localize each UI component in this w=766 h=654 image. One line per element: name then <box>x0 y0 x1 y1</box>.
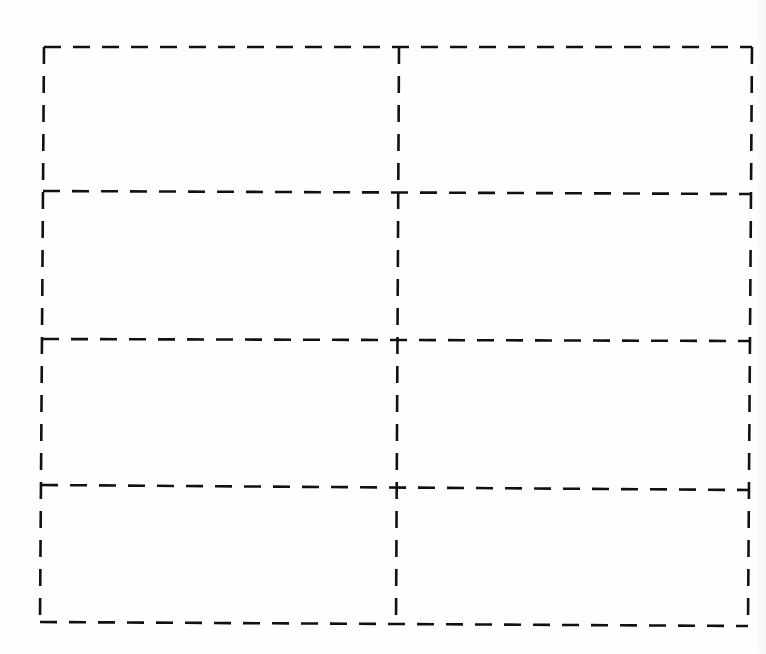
grid-row-divider-2 <box>42 339 750 341</box>
grid-bottom-edge <box>40 622 748 626</box>
grid-left-edge <box>40 47 44 622</box>
grid-right-edge <box>748 47 752 626</box>
scanned-sheet <box>0 0 766 654</box>
grid-column-divider <box>396 47 399 624</box>
grid-row-divider-3 <box>41 485 749 490</box>
cut-line-grid <box>0 0 766 654</box>
